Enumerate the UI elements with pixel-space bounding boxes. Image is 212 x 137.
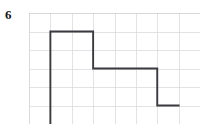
waveform-series (50, 32, 178, 125)
figure-root: 6 (0, 0, 212, 137)
waveform-line (50, 32, 178, 125)
waveform-plot-svg (29, 13, 200, 124)
plot-area (29, 13, 200, 124)
problem-number-label: 6 (5, 6, 21, 24)
